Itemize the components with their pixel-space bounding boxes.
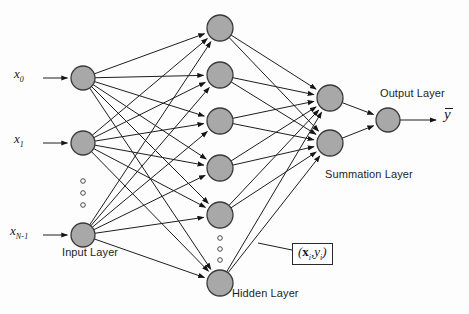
hidden-node-0 <box>207 15 233 41</box>
training-sample-box: (xi,yi) <box>292 243 333 265</box>
edge-hidden4-summation0 <box>229 110 319 206</box>
edge-input1-hidden2 <box>95 124 204 141</box>
output-layer-label: Output Layer <box>380 87 445 99</box>
edges-group <box>43 34 436 278</box>
hidden-ellipsis-dot-1 <box>218 247 223 252</box>
summation-node-1 <box>317 130 343 156</box>
edge-summation1-output <box>342 126 374 138</box>
paren-close: ) <box>322 244 326 259</box>
summation-layer-label: Summation Layer <box>325 168 413 180</box>
output-node <box>376 108 400 132</box>
neural-network-diagram: x0 x1 xN-1 Input Layer Hidden Layer Summ… <box>0 0 469 314</box>
input-ellipsis-dot-2 <box>81 203 86 208</box>
edge-input0-hidden0 <box>94 34 204 74</box>
hidden-ellipsis-dot-0 <box>218 236 223 241</box>
hidden-node-4 <box>207 202 233 228</box>
edge-input1-hidden1 <box>94 82 205 137</box>
input-label-x0: x0 <box>14 66 24 84</box>
hidden-node-2 <box>207 108 233 134</box>
network-graph-svg <box>0 0 469 314</box>
math-subscript: N-1 <box>16 232 29 241</box>
hidden-node-3 <box>207 155 233 181</box>
edge-summation0-output <box>342 103 373 115</box>
summation-node-0 <box>317 85 343 111</box>
output-symbol-ybar: y <box>444 108 453 123</box>
input-label-xn-1: xN-1 <box>10 223 28 241</box>
hidden-ellipsis-dot-2 <box>218 258 223 263</box>
ybar-glyph: y <box>444 106 451 122</box>
input-node-1 <box>71 131 95 155</box>
edge-input2-hidden4 <box>95 217 204 233</box>
edge-hidden4-summation1 <box>231 152 316 208</box>
edge-input2-hidden2 <box>92 132 207 228</box>
input-ellipsis-dot-1 <box>81 191 86 196</box>
edge-input2-hidden5 <box>94 239 204 278</box>
hidden-node-5 <box>207 270 233 296</box>
hidden-node-1 <box>207 62 233 88</box>
hidden-layer-label: Hidden Layer <box>232 287 299 299</box>
edge-hidden3-summation0 <box>231 107 316 161</box>
input-label-x1: x1 <box>14 131 24 149</box>
edge-hidden0-summation0 <box>231 35 316 89</box>
input-layer-label: Input Layer <box>62 246 118 258</box>
math-subscript: 1 <box>20 140 24 149</box>
nodes-group <box>71 15 400 296</box>
edge-hidden0-summation1 <box>229 37 319 131</box>
edge-hidden3-summation1 <box>233 147 314 165</box>
math-subscript: 0 <box>20 75 24 84</box>
sample-box-leader <box>258 243 292 250</box>
input-node-2 <box>71 223 95 247</box>
input-node-0 <box>71 66 95 90</box>
input-ellipsis-dot-0 <box>81 179 86 184</box>
